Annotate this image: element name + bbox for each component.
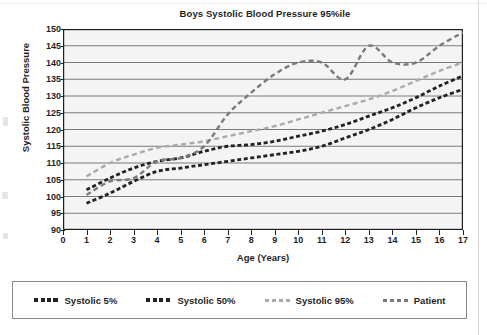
y-tick-label: 105 <box>35 175 61 185</box>
legend-swatch-icon <box>34 298 60 302</box>
y-tick-label: 100 <box>35 192 61 202</box>
x-tick-label: 2 <box>99 235 121 246</box>
x-tick-label: 1 <box>76 235 98 246</box>
legend-label: Systolic 95% <box>296 295 354 306</box>
x-tick-mark <box>181 230 182 235</box>
x-tick-label: 14 <box>381 235 403 246</box>
x-tick-label: 6 <box>193 235 215 246</box>
x-axis-title: Age (Years) <box>63 252 463 263</box>
legend-label: Systolic 5% <box>65 295 118 306</box>
x-tick-label: 5 <box>170 235 192 246</box>
x-tick-label: 15 <box>405 235 427 246</box>
y-tick-label: 150 <box>35 24 61 34</box>
page-canvas: Boys Systolic Blood Pressure 95%ile Syst… <box>0 0 487 335</box>
y-tick-label: 135 <box>35 74 61 84</box>
x-tick-mark <box>63 230 64 235</box>
legend-item[interactable]: Patient <box>383 295 446 306</box>
y-tick-label: 110 <box>35 158 61 168</box>
x-tick-mark <box>392 230 393 235</box>
x-tick-mark <box>298 230 299 235</box>
y-tick-label: 120 <box>35 125 61 135</box>
y-tick-label: 125 <box>35 108 61 118</box>
y-tick-label: 145 <box>35 41 61 51</box>
x-tick-mark <box>416 230 417 235</box>
legend-label: Systolic 50% <box>177 295 235 306</box>
x-tick-label: 17 <box>452 235 474 246</box>
x-tick-mark <box>322 230 323 235</box>
x-tick-label: 4 <box>146 235 168 246</box>
legend-item[interactable]: Systolic 50% <box>146 295 235 306</box>
y-tick-label: 140 <box>35 58 61 68</box>
x-tick-mark <box>87 230 88 235</box>
y-axis-tick-labels: 1501451401351301251201151101051009590 <box>30 29 61 230</box>
y-axis-title: Systolic Blood Pressure <box>20 23 31 173</box>
x-tick-label: 3 <box>123 235 145 246</box>
chart-legend: Systolic 5%Systolic 50%Systolic 95%Patie… <box>12 281 467 319</box>
y-tick-label: 95 <box>35 208 61 218</box>
x-tick-mark <box>110 230 111 235</box>
x-tick-label: 7 <box>217 235 239 246</box>
x-tick-mark <box>134 230 135 235</box>
x-tick-mark <box>439 230 440 235</box>
x-tick-label: 11 <box>311 235 333 246</box>
x-tick-mark <box>275 230 276 235</box>
x-tick-label: 16 <box>428 235 450 246</box>
x-tick-label: 12 <box>334 235 356 246</box>
legend-swatch-icon <box>265 299 291 302</box>
legend-item[interactable]: Systolic 95% <box>265 295 354 306</box>
y-tick-label: 130 <box>35 91 61 101</box>
x-tick-label: 8 <box>240 235 262 246</box>
y-tick-label: 115 <box>35 141 61 151</box>
plot-area <box>63 29 463 230</box>
plot-svg <box>63 29 463 230</box>
x-tick-mark <box>157 230 158 235</box>
x-tick-label: 9 <box>264 235 286 246</box>
legend-swatch-icon <box>383 299 409 302</box>
x-axis-tick-labels: 01234567891011121314151617 <box>63 235 463 248</box>
x-tick-mark <box>251 230 252 235</box>
legend-swatch-icon <box>146 298 172 302</box>
x-tick-mark <box>345 230 346 235</box>
x-tick-mark <box>204 230 205 235</box>
x-tick-label: 13 <box>358 235 380 246</box>
x-tick-label: 10 <box>287 235 309 246</box>
x-tick-mark <box>228 230 229 235</box>
legend-items-row: Systolic 5%Systolic 50%Systolic 95%Patie… <box>13 282 466 318</box>
x-tick-mark <box>463 230 464 235</box>
x-tick-mark <box>369 230 370 235</box>
legend-label: Patient <box>414 295 446 306</box>
chart-figure: Boys Systolic Blood Pressure 95%ile Syst… <box>0 0 487 335</box>
chart-title: Boys Systolic Blood Pressure 95%ile <box>60 8 470 19</box>
y-tick-label: 90 <box>35 225 61 235</box>
legend-item[interactable]: Systolic 5% <box>34 295 118 306</box>
x-tick-label: 0 <box>52 235 74 246</box>
